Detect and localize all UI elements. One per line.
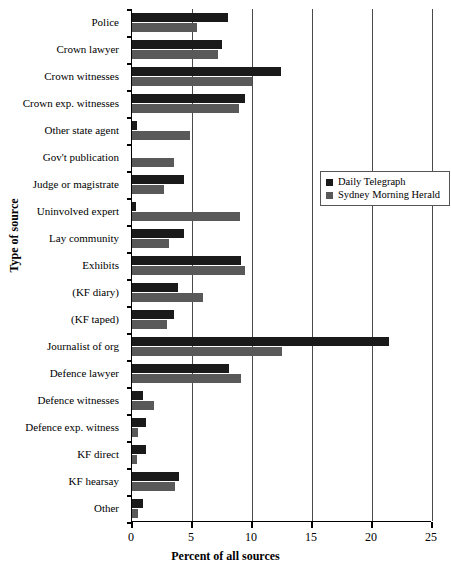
bar-daily-telegraph [132,391,143,400]
y-axis-tick [127,306,132,308]
x-axis-label: 25 [416,530,446,544]
bar-sydney-morning-herald [132,23,197,32]
y-axis-tick [127,144,132,146]
bar-group [132,144,431,171]
y-axis-tick [127,387,132,389]
bar-daily-telegraph [132,499,143,508]
bar-daily-telegraph [132,94,245,103]
bar-sydney-morning-herald [132,158,174,167]
bar-sydney-morning-herald [132,212,240,221]
y-axis-label: Police [92,17,120,28]
y-axis-labels: PoliceCrown lawyerCrown witnessesCrown e… [0,9,127,522]
bar-sydney-morning-herald [132,347,282,356]
bar-sydney-morning-herald [132,293,203,302]
x-axis-label: 20 [356,530,386,544]
y-axis-label: Defence witnesses [37,395,119,406]
y-axis-tick [127,117,132,119]
bar-sydney-morning-herald [132,131,190,140]
bar-daily-telegraph [132,202,136,211]
x-axis-tick [131,522,133,528]
y-axis-label: Uninvolved expert [37,206,119,217]
y-axis-tick [127,252,132,254]
y-axis-tick [127,198,132,200]
legend-label: Daily Telegraph [338,176,406,188]
y-axis-label: Other [94,503,119,514]
bar-daily-telegraph [132,472,179,481]
y-axis-tick [127,90,132,92]
x-axis-tick [311,522,313,528]
gridline [432,9,433,521]
y-axis-tick [127,360,132,362]
y-axis-label: Crown witnesses [44,71,119,82]
y-axis-label: (KF diary) [72,287,119,298]
bar-group [132,90,431,117]
bar-sydney-morning-herald [132,374,241,383]
y-axis-tick [127,441,132,443]
bar-daily-telegraph [132,256,241,265]
bar-group [132,279,431,306]
y-axis-label: Defence exp. witness [25,422,119,433]
bar-sydney-morning-herald [132,50,218,59]
bar-group [132,252,431,279]
x-axis-title: Percent of all sources [0,549,451,564]
bar-sydney-morning-herald [132,185,164,194]
plot-area [131,9,431,522]
bar-group [132,333,431,360]
bar-group [132,306,431,333]
y-axis-label: Crown lawyer [56,44,119,55]
bar-group [132,36,431,63]
bar-group [132,441,431,468]
x-axis-label: 5 [176,530,206,544]
x-axis-tick [371,522,373,528]
y-axis-label: Judge or magistrate [33,179,119,190]
bar-chart: Type of source PoliceCrown lawyerCrown w… [0,0,451,580]
x-axis-tick [251,522,253,528]
bar-group [132,495,431,522]
y-axis-label: Exhibits [82,260,119,271]
bar-sydney-morning-herald [132,239,169,248]
bar-sydney-morning-herald [132,455,137,464]
y-axis-label: KF hearsay [69,476,119,487]
x-axis-tick [431,522,433,528]
bar-sydney-morning-herald [132,77,252,86]
bar-group [132,468,431,495]
bar-sydney-morning-herald [132,509,138,518]
bar-sydney-morning-herald [132,104,239,113]
x-axis-label: 0 [116,530,146,544]
bar-daily-telegraph [132,229,184,238]
y-axis-tick [127,279,132,281]
y-axis-tick [127,495,132,497]
y-axis-label: (KF taped) [71,314,119,325]
legend: Daily Telegraph Sydney Morning Herald [320,171,450,206]
bar-sydney-morning-herald [132,482,175,491]
y-axis-tick [127,9,132,11]
bar-daily-telegraph [132,337,389,346]
bar-daily-telegraph [132,175,184,184]
y-axis-tick [127,468,132,470]
y-axis-tick [127,225,132,227]
y-axis-tick [127,171,132,173]
bar-sydney-morning-herald [132,320,167,329]
x-axis-label: 10 [236,530,266,544]
bar-group [132,387,431,414]
y-axis-label: Gov't publication [43,152,119,163]
legend-label: Sydney Morning Herald [338,189,440,201]
x-axis-labels: 0510152025 [0,530,451,546]
y-axis-label: Other state agent [44,125,119,136]
bar-daily-telegraph [132,364,229,373]
bar-daily-telegraph [132,310,174,319]
bar-daily-telegraph [132,445,146,454]
bar-daily-telegraph [132,67,281,76]
bar-sydney-morning-herald [132,401,154,410]
bar-daily-telegraph [132,418,146,427]
y-axis-label: Crown exp. witnesses [23,98,119,109]
y-axis-label: Defence lawyer [50,368,119,379]
bar-daily-telegraph [132,283,178,292]
x-axis-label: 15 [296,530,326,544]
bar-group [132,225,431,252]
y-axis-tick [127,63,132,65]
bar-sydney-morning-herald [132,266,245,275]
bar-daily-telegraph [132,40,222,49]
y-axis-label: Lay community [49,233,119,244]
bar-group [132,360,431,387]
